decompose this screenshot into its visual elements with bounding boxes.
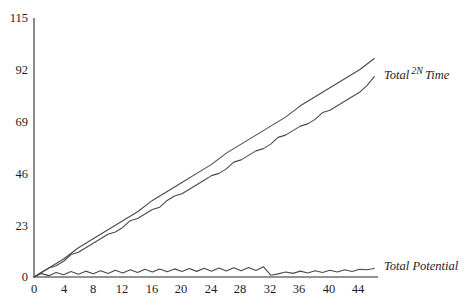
x-tick-label-28: 28	[230, 283, 250, 296]
series-label-total-time-suffix: Time	[425, 68, 449, 82]
series-label-total-time: Total2NTime	[384, 66, 449, 82]
chart-page: 115 92 69 46 23 0 0 4 8 12 16 20 24 28 3…	[0, 0, 463, 298]
series-label-total-potential: Total Potential	[384, 260, 458, 273]
series-group	[34, 59, 374, 277]
y-tick-label-69: 69	[0, 116, 28, 129]
chart-plot-area	[0, 0, 463, 298]
x-tick-label-12: 12	[112, 283, 132, 296]
series-label-total-time-superscript: 2N	[409, 65, 425, 76]
series-line-total-time	[34, 77, 374, 277]
x-tick-label-8: 8	[83, 283, 103, 296]
x-tick-label-44: 44	[348, 283, 368, 296]
x-tick-label-32: 32	[260, 283, 280, 296]
series-line-total-potential	[34, 267, 374, 277]
series-line-2n	[34, 59, 374, 277]
x-tick-label-20: 20	[171, 283, 191, 296]
x-tick-label-4: 4	[54, 283, 74, 296]
axes-group	[34, 18, 378, 277]
y-tick-label-115: 115	[0, 12, 28, 25]
x-tick-label-16: 16	[142, 283, 162, 296]
y-tick-label-92: 92	[0, 64, 28, 77]
y-tick-label-46: 46	[0, 168, 28, 181]
x-tick-label-36: 36	[289, 283, 309, 296]
y-tick-label-23: 23	[0, 220, 28, 233]
series-label-total-time-prefix: Total	[384, 68, 409, 82]
x-tick-label-40: 40	[319, 283, 339, 296]
x-tick-label-24: 24	[201, 283, 221, 296]
x-tick-label-0: 0	[24, 283, 44, 296]
y-tick-label-0: 0	[0, 271, 28, 284]
